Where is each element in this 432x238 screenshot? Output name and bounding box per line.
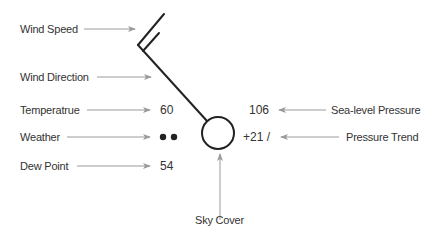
label-weather: Weather xyxy=(20,131,60,144)
value-temperature: 60 xyxy=(160,103,173,117)
label-dew-point: Dew Point xyxy=(20,160,68,173)
wind-speed-full-barb xyxy=(138,14,164,45)
value-pressure-trend: +21 / xyxy=(243,130,270,144)
label-sea-level-pressure: Sea-level Pressure xyxy=(331,104,420,117)
label-wind-speed: Wind Speed xyxy=(20,23,78,36)
label-temperature: Temperatrue xyxy=(20,104,80,117)
label-pressure-trend: Pressure Trend xyxy=(346,131,418,144)
value-dew-point: 54 xyxy=(160,159,173,173)
sky-cover-circle-icon xyxy=(202,117,234,149)
label-sky-cover: Sky Cover xyxy=(195,214,244,227)
label-wind-direction: Wind Direction xyxy=(20,71,89,84)
value-sea-level-pressure: 106 xyxy=(249,103,269,117)
weather-rain-dots-icon xyxy=(160,134,177,140)
pointer-arrows xyxy=(67,29,339,220)
